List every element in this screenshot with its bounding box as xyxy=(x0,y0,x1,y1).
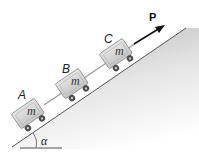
cart-c-label: C xyxy=(104,32,113,46)
cart-a-label: A xyxy=(17,88,26,102)
angle-label: α xyxy=(41,134,48,148)
cart-a-mass: m xyxy=(27,104,36,118)
cart-b-label: B xyxy=(62,62,70,76)
force-arrow xyxy=(134,28,160,44)
force-label: P xyxy=(149,11,156,23)
force-arrowhead xyxy=(155,25,165,33)
cart-c-mass: m xyxy=(115,44,124,58)
diagram-canvas: α P m A m B m C xyxy=(0,0,199,162)
incline-diagram: α P m A m B m C xyxy=(0,0,199,162)
cart-b-mass: m xyxy=(71,74,80,88)
